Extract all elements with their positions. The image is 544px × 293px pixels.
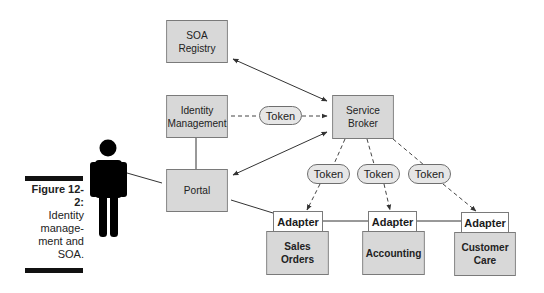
service-broker-label: Service Broker	[346, 104, 380, 130]
token-customer-care: Token	[408, 164, 451, 184]
soa-registry-label: SOA Registry	[178, 29, 215, 55]
token-label: Token	[314, 168, 343, 180]
portal-label: Portal	[184, 184, 210, 197]
accounting-node: Accounting	[362, 231, 424, 275]
token-idm: Token	[259, 106, 302, 125]
token-sales: Token	[307, 164, 350, 184]
token3-adapter3-dashed-arrow	[443, 184, 476, 211]
adapter-accounting: Adapter	[368, 211, 417, 232]
portal-node: Portal	[166, 169, 228, 212]
token2-adapter2-dashed-arrow	[384, 184, 390, 210]
identity-management-label: Identity Management	[167, 104, 226, 130]
adapter-label: Adapter	[464, 217, 506, 229]
soa-registry-node: SOA Registry	[166, 20, 228, 63]
token1-adapter1-dashed-arrow	[307, 184, 320, 210]
broker-token1-dashed	[334, 139, 345, 164]
user-person-icon	[90, 140, 127, 238]
accounting-label: Accounting	[366, 247, 422, 260]
adapter-label: Adapter	[277, 216, 319, 228]
caption-body: Identity manage- ment and SOA.	[22, 209, 84, 261]
caption-title: Figure 12-2:	[22, 183, 84, 209]
token-label: Token	[266, 110, 295, 122]
identity-soa-diagram: Figure 12-2: Identity manage- ment and S…	[0, 0, 544, 293]
customer-care-label: Customer Care	[461, 241, 508, 267]
broker-token2-dashed	[367, 139, 374, 164]
identity-management-node: Identity Management	[166, 95, 228, 138]
adapter-sales-orders: Adapter	[273, 211, 323, 232]
token-label: Token	[364, 168, 393, 180]
caption-bottom-rule	[25, 268, 83, 273]
caption-top-rule	[25, 176, 83, 181]
token-label: Token	[415, 168, 444, 180]
sales-orders-node: Sales Orders	[266, 231, 328, 275]
sales-orders-label: Sales Orders	[281, 240, 314, 266]
adapter-customer-care: Adapter	[461, 212, 509, 233]
service-broker-node: Service Broker	[332, 95, 394, 139]
adapter-label: Adapter	[372, 216, 414, 228]
registry-broker-arrow	[233, 59, 327, 101]
portal-adapter-line	[231, 200, 273, 213]
broker-token3-dashed	[393, 139, 424, 165]
customer-care-node: Customer Care	[454, 232, 516, 276]
user-portal-line	[127, 173, 162, 183]
token-accounting: Token	[357, 164, 400, 184]
figure-caption: Figure 12-2: Identity manage- ment and S…	[22, 183, 84, 261]
